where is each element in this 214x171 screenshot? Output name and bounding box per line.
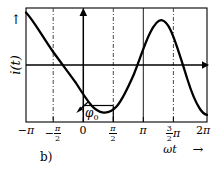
xtick-minus-half-pi: −π2 — [36, 124, 70, 143]
xtick-zero: 0 — [66, 124, 100, 137]
figure-panel-b: ↑ i(t) −π −π2 0 π2 π 32π 2π ωt → φ0 b) — [0, 0, 214, 171]
phi0-subscript: 0 — [93, 113, 98, 122]
xtick-three-half-pi: 32π — [156, 124, 190, 143]
y-axis-label: i(t) — [1, 51, 31, 79]
xtick-pi: π — [126, 124, 160, 137]
panel-letter: b) — [40, 150, 52, 164]
xtick-half-pi: π2 — [96, 124, 130, 143]
phi0-label: φ0 — [85, 106, 99, 125]
x-axis-label: ωt — [150, 144, 190, 156]
y-axis-arrow-glyph: ↑ — [9, 12, 23, 28]
xtick-two-pi: 2π — [186, 124, 214, 137]
x-axis-arrow-glyph: → — [186, 143, 210, 156]
